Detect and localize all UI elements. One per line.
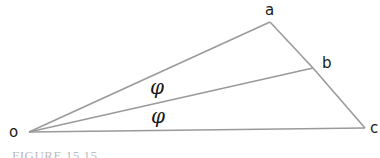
figure-caption: FIGURE 15.15 xyxy=(12,148,97,158)
vertex-label-c: c xyxy=(370,119,378,137)
angle-label-phi-lower: φ xyxy=(151,104,165,128)
edge-o-c xyxy=(29,128,365,132)
triangle-bisector-diagram: o a b c φ φ FIGURE 15.15 xyxy=(0,0,380,158)
edge-o-b xyxy=(29,68,313,132)
edge-b-c xyxy=(313,68,365,128)
vertex-label-a: a xyxy=(265,1,274,19)
edge-a-b xyxy=(270,22,313,68)
angle-label-phi-upper: φ xyxy=(150,75,164,99)
vertex-label-b: b xyxy=(322,54,332,72)
vertex-label-o: o xyxy=(9,123,18,141)
